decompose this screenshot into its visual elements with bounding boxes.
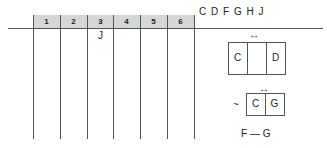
rule3-text: F — G xyxy=(241,128,270,139)
column-header-6: 6 xyxy=(167,15,194,28)
grid-line xyxy=(194,15,195,139)
grid-entry-col3: J xyxy=(87,30,114,41)
rule1-left: C xyxy=(228,52,247,63)
rule2-right: G xyxy=(265,98,284,109)
grid-line xyxy=(167,15,168,139)
column-header-4: 4 xyxy=(113,15,140,28)
negation-symbol: ~ xyxy=(233,99,239,110)
letter-set: C D F G H J xyxy=(199,6,263,17)
column-header-3: 3 xyxy=(87,15,114,28)
swap-arrow-icon: ↔ xyxy=(249,29,259,40)
grid-line xyxy=(33,15,34,139)
column-header-2: 2 xyxy=(60,15,87,28)
grid-header-rule xyxy=(8,28,323,29)
grid-line xyxy=(60,15,61,139)
grid-line xyxy=(140,15,141,139)
column-header-5: 5 xyxy=(140,15,167,28)
rule2-left: C xyxy=(246,98,265,109)
rule1-right: D xyxy=(266,52,285,63)
rule1-divider xyxy=(247,42,248,75)
column-header-1: 1 xyxy=(33,15,60,28)
